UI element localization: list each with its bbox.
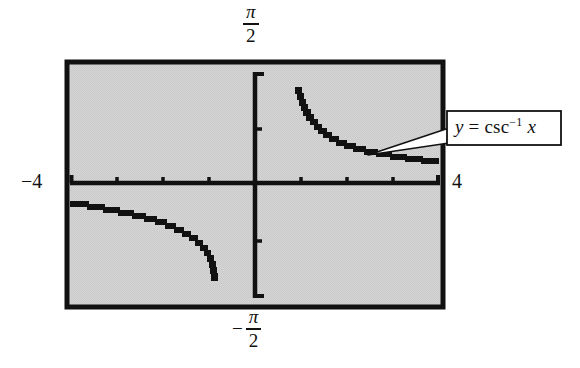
x-axis-min-label: −4 [21,170,42,193]
minus-sign: − [232,318,243,340]
figure-container: π 2 − π 2 −4 4 y = csc−1 x [0,0,580,368]
callout-function-name: csc [484,116,509,137]
callout-variable-x: x [527,116,536,137]
fraction-denominator: 2 [243,25,259,46]
fraction-numerator: π [243,2,259,23]
fraction-numerator: π [246,307,262,328]
x-axis-max-label: 4 [452,170,462,193]
fraction-denominator: 2 [246,330,262,351]
callout-exponent: −1 [509,115,522,129]
fraction-neg-pi-over-2: π 2 [246,307,262,350]
callout-label: y = csc−1 x [455,115,536,138]
callout-equals: = [469,116,480,137]
y-axis-max-label: π 2 [243,2,259,45]
callout-variable-y: y [455,116,464,137]
graph-svg [0,0,580,368]
y-axis-min-label: − π 2 [232,307,261,350]
fraction-pi-over-2: π 2 [243,2,259,45]
